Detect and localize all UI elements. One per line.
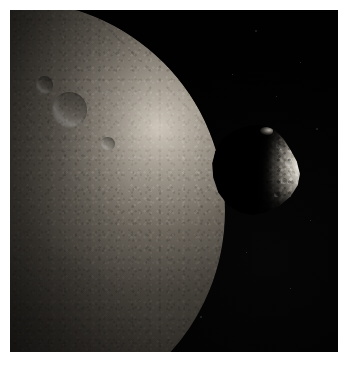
secondary-body-limb-highlight: [203, 123, 305, 217]
secondary-body: [203, 123, 305, 217]
astronomy-photo: [10, 10, 338, 352]
primary-body-limb-highlight: [10, 10, 225, 352]
primary-body-disc: [10, 10, 225, 352]
secondary-body-silhouette: [203, 123, 305, 217]
image-viewport: [0, 0, 345, 368]
secondary-body-ridge-highlight: [260, 127, 273, 135]
